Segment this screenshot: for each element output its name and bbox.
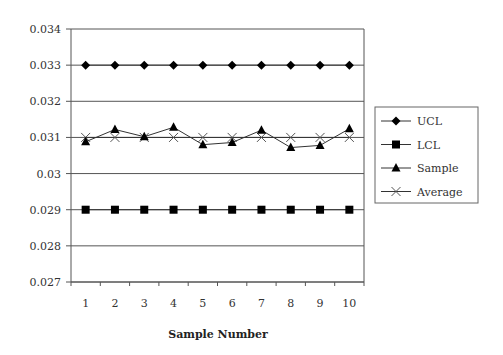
y-tick-label: 0.029 bbox=[30, 204, 62, 217]
square-marker-icon bbox=[228, 206, 236, 214]
diamond-marker-icon bbox=[286, 61, 295, 70]
x-tick-label: 9 bbox=[317, 297, 324, 310]
square-marker-icon bbox=[82, 206, 90, 214]
y-tick-label: 0.031 bbox=[30, 131, 62, 144]
legend-label: Sample bbox=[417, 162, 459, 175]
diamond-marker-icon bbox=[345, 61, 354, 70]
square-marker-icon bbox=[170, 206, 178, 214]
x-tick-label: 7 bbox=[258, 297, 265, 310]
diamond-marker-icon bbox=[316, 61, 325, 70]
series-ucl bbox=[81, 61, 354, 70]
x-tick-label: 6 bbox=[229, 297, 236, 310]
x-tick-label: 5 bbox=[199, 297, 206, 310]
x-tick-label: 1 bbox=[82, 297, 89, 310]
triangle-marker-icon bbox=[286, 143, 295, 152]
diamond-marker-icon bbox=[110, 61, 119, 70]
series-lcl bbox=[82, 206, 354, 214]
x-axis-title: Sample Number bbox=[168, 328, 268, 341]
y-tick-label: 0.032 bbox=[30, 95, 62, 108]
control-chart: 0.0270.0280.0290.030.0310.0320.0330.034 … bbox=[0, 0, 503, 355]
y-tick-label: 0.033 bbox=[30, 59, 62, 72]
legend-label: LCL bbox=[417, 139, 441, 152]
x-tick-label: 3 bbox=[141, 297, 148, 310]
triangle-marker-icon bbox=[228, 137, 237, 146]
square-marker-icon bbox=[316, 206, 324, 214]
square-marker-icon bbox=[287, 206, 295, 214]
diamond-marker-icon bbox=[257, 61, 266, 70]
y-tick-label: 0.034 bbox=[30, 23, 62, 36]
x-tick-label: 10 bbox=[342, 297, 356, 310]
diamond-marker-icon bbox=[228, 61, 237, 70]
triangle-marker-icon bbox=[345, 124, 354, 133]
legend: UCLLCLSampleAverage bbox=[375, 107, 478, 203]
triangle-marker-icon bbox=[316, 140, 325, 149]
series-sample bbox=[81, 122, 354, 151]
square-marker-icon bbox=[257, 206, 265, 214]
x-tick-label: 8 bbox=[287, 297, 294, 310]
series-group bbox=[81, 61, 354, 214]
legend-label: UCL bbox=[417, 115, 443, 128]
x-tick-label: 2 bbox=[111, 297, 118, 310]
y-axis: 0.0270.0280.0290.030.0310.0320.0330.034 bbox=[30, 23, 365, 289]
series-average bbox=[81, 133, 354, 142]
y-tick-label: 0.03 bbox=[37, 168, 62, 181]
diamond-marker-icon bbox=[140, 61, 149, 70]
x-axis: 12345678910 bbox=[71, 282, 364, 310]
square-marker-icon bbox=[392, 141, 400, 149]
square-marker-icon bbox=[199, 206, 207, 214]
x-tick-label: 4 bbox=[170, 297, 177, 310]
square-marker-icon bbox=[345, 206, 353, 214]
triangle-marker-icon bbox=[110, 124, 119, 133]
y-tick-label: 0.028 bbox=[30, 240, 62, 253]
y-tick-label: 0.027 bbox=[30, 276, 62, 289]
triangle-marker-icon bbox=[257, 125, 266, 134]
legend-label: Average bbox=[416, 186, 463, 199]
diamond-marker-icon bbox=[81, 61, 90, 70]
square-marker-icon bbox=[111, 206, 119, 214]
square-marker-icon bbox=[140, 206, 148, 214]
diamond-marker-icon bbox=[169, 61, 178, 70]
diamond-marker-icon bbox=[198, 61, 207, 70]
triangle-marker-icon bbox=[169, 122, 178, 131]
